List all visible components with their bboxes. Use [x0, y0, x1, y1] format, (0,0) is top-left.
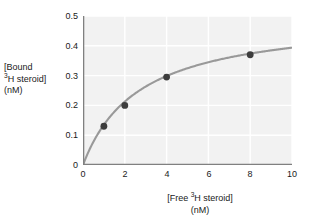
data-point-marker: [163, 74, 170, 81]
x-tick-label-0: 0: [73, 169, 93, 179]
plot-svg: [83, 16, 292, 165]
gridlines: [83, 16, 292, 165]
y-tick-label-1: 0.1: [52, 130, 78, 140]
data-point-marker: [247, 51, 254, 58]
x-tick-label-3: 6: [199, 169, 219, 179]
x-tick-label-5: 10: [282, 169, 302, 179]
x-axis-label-line-1: [Free 3H steroid]: [140, 192, 260, 204]
curve-path: [83, 48, 292, 165]
x-tick-label-1: 2: [115, 169, 135, 179]
x-axis-label: [Free 3H steroid] (nM): [140, 192, 260, 216]
y-axis-label-line-3: (nM): [4, 85, 62, 97]
x-axis-label-line-2: (nM): [140, 204, 260, 216]
x-axis-label-line-1-pre: [Free: [167, 193, 191, 203]
y-tick-label-2: 0.2: [52, 100, 78, 110]
x-tick-label-2: 4: [157, 169, 177, 179]
y-tick-label-5: 0.5: [52, 11, 78, 21]
y-axis-label-line-2-text: H steroid]: [8, 74, 47, 84]
y-tick-label-4: 0.4: [52, 41, 78, 51]
data-points: [101, 51, 254, 129]
chart-figure: [Bound 3H steroid] (nM) 0 0.1 0.2 0.3 0.…: [0, 0, 312, 222]
y-tick-label-3: 0.3: [52, 71, 78, 81]
plot-area: [83, 16, 292, 165]
data-point-marker: [121, 102, 128, 109]
x-tick-label-4: 8: [240, 169, 260, 179]
data-point-marker: [101, 123, 108, 130]
x-axis-label-line-1-post: H steroid]: [194, 193, 233, 203]
